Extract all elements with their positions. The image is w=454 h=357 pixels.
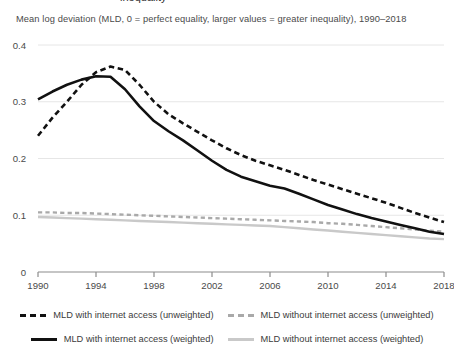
legend-item-with-internet-weighted[interactable]: MLD with internet access (weighted) [31, 334, 214, 344]
legend-swatch-dashed-dark-icon [20, 314, 46, 317]
legend-label: MLD without internet access (weighted) [261, 334, 424, 344]
legend-label: MLD with internet access (weighted) [64, 334, 214, 344]
legend-label: MLD with internet access (unweighted) [53, 310, 213, 320]
legend-item-without-internet-unweighted[interactable]: MLD without internet access (unweighted) [228, 310, 434, 320]
series-line-2 [38, 76, 444, 234]
y-axis-tick-label: 0.4 [13, 40, 27, 51]
legend-item-without-internet-weighted[interactable]: MLD without internet access (weighted) [228, 334, 424, 344]
legend-row-unweighted: MLD with internet access (unweighted) ML… [0, 303, 454, 327]
x-axis-tick-label: 2018 [433, 280, 454, 291]
y-axis-tick-label: 0.2 [13, 153, 26, 164]
chart-page: inequality Mean log deviation (MLD, 0 = … [0, 0, 454, 357]
series-line-0 [38, 67, 444, 222]
line-chart: 00.10.20.30.4199019941998200220062010201… [0, 0, 454, 300]
legend-swatch-dashed-gray-icon [228, 314, 254, 317]
y-axis-tick-label: 0 [21, 267, 26, 278]
y-axis-tick-label: 0.1 [13, 210, 26, 221]
x-axis-tick-label: 2002 [201, 280, 222, 291]
legend-row-weighted: MLD with internet access (weighted) MLD … [0, 327, 454, 351]
x-axis-tick-label: 2006 [259, 280, 280, 291]
x-axis-tick-label: 2014 [375, 280, 397, 291]
y-axis-tick-label: 0.3 [13, 96, 26, 107]
x-axis-tick-label: 1994 [85, 280, 107, 291]
legend-swatch-solid-gray-icon [228, 338, 254, 341]
legend-swatch-solid-dark-icon [31, 338, 57, 341]
chart-legend: MLD with internet access (unweighted) ML… [0, 303, 454, 351]
x-axis-tick-label: 2010 [317, 280, 338, 291]
x-axis-tick-label: 1998 [143, 280, 164, 291]
x-axis-tick-label: 1990 [27, 280, 48, 291]
legend-item-with-internet-unweighted[interactable]: MLD with internet access (unweighted) [20, 310, 213, 320]
legend-label: MLD without internet access (unweighted) [261, 310, 434, 320]
